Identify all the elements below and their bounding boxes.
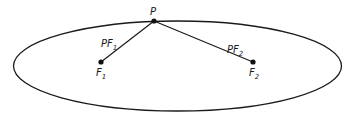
label-f1: F1 xyxy=(96,67,106,81)
label-f2: F2 xyxy=(249,67,260,81)
point-p xyxy=(151,18,156,23)
label-pf1: PF1 xyxy=(101,38,117,52)
focus-1-dot xyxy=(98,59,103,64)
ellipse xyxy=(14,21,342,111)
label-pf2: PF2 xyxy=(227,44,244,58)
ellipse-diagram: P PF1 PF2 F1 F2 xyxy=(0,0,350,116)
focus-2-dot xyxy=(250,59,255,64)
label-p: P xyxy=(150,6,157,17)
